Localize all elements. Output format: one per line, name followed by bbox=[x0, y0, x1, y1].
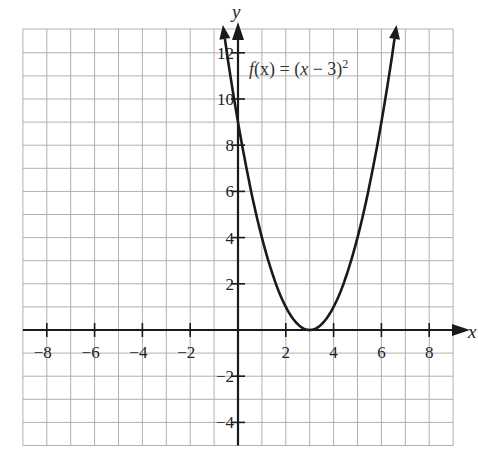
x-tick-label: −4 bbox=[129, 343, 148, 362]
y-tick-label: 4 bbox=[226, 229, 235, 248]
y-tick-label: −4 bbox=[216, 413, 235, 432]
y-tick-label: 10 bbox=[217, 90, 234, 109]
function-label-x: x bbox=[299, 59, 308, 79]
x-tick-label: 4 bbox=[329, 343, 338, 362]
y-tick-label: 8 bbox=[226, 136, 235, 155]
x-axis-label: x bbox=[467, 321, 477, 342]
y-axis-arrow-icon bbox=[232, 22, 244, 40]
curve-arrow-icon bbox=[389, 25, 400, 40]
x-tick-label: 6 bbox=[377, 343, 386, 362]
x-tick-label: −8 bbox=[34, 343, 52, 362]
y-tick-label: 2 bbox=[226, 275, 235, 294]
curve-arrow-icon bbox=[219, 25, 230, 40]
x-tick-label: −6 bbox=[82, 343, 100, 362]
function-label-minus: − 3) bbox=[308, 59, 342, 80]
parabola-chart: −8−6−4−22468−4−224681012 x y f(x) = (x −… bbox=[0, 0, 478, 454]
x-tick-label: 8 bbox=[425, 343, 434, 362]
y-tick-label: −2 bbox=[216, 367, 234, 386]
function-label-exponent: 2 bbox=[342, 57, 348, 71]
y-tick-label: 6 bbox=[226, 182, 235, 201]
x-tick-label: −2 bbox=[177, 343, 195, 362]
function-label-open: (x) = ( bbox=[254, 59, 300, 80]
axes bbox=[23, 22, 470, 446]
function-label: f(x) = (x − 3)2 bbox=[249, 57, 348, 80]
x-tick-label: 2 bbox=[282, 343, 291, 362]
y-axis-label: y bbox=[230, 1, 241, 22]
